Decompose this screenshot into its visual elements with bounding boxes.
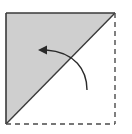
origami-fold-diagram <box>0 0 132 134</box>
